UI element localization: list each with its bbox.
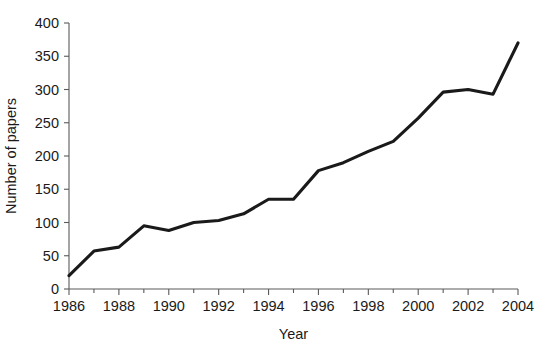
x-tick-label: 1994 (252, 298, 284, 314)
y-tick-label: 150 (35, 181, 59, 197)
x-tick-label: 2004 (502, 298, 534, 314)
x-tick-label-group: 1986198819901992199419961998200020022004 (53, 298, 534, 314)
x-tick-label: 2002 (452, 298, 484, 314)
chart-canvas: 050100150200250300350400 198619881990199… (0, 0, 538, 355)
y-axis-title: Number of papers (3, 98, 19, 214)
line-chart: 050100150200250300350400 198619881990199… (0, 0, 538, 355)
y-tick-label: 350 (35, 48, 59, 64)
x-tick-label: 2000 (402, 298, 434, 314)
x-tick-label: 1986 (53, 298, 85, 314)
x-tick-label: 1988 (103, 298, 135, 314)
x-tick-label: 1998 (352, 298, 384, 314)
y-tick-label: 50 (43, 248, 59, 264)
x-tick-label: 1992 (203, 298, 235, 314)
y-tick-label: 0 (51, 281, 59, 297)
y-axis-group: 050100150200250300350400 (35, 15, 69, 297)
x-axis-title: Year (279, 326, 308, 342)
y-tick-label: 300 (35, 82, 59, 98)
data-series-group (69, 43, 518, 276)
x-axis-group: 1986198819901992199419961998200020022004 (53, 289, 534, 314)
y-tick-label: 100 (35, 215, 59, 231)
x-tick-label: 1990 (153, 298, 185, 314)
y-tick-label-group: 050100150200250300350400 (35, 15, 59, 297)
y-tick-label: 250 (35, 115, 59, 131)
x-tick-group (69, 289, 518, 295)
x-tick-label: 1996 (302, 298, 334, 314)
y-tick-label: 200 (35, 148, 59, 164)
series-line-number-of-papers (69, 43, 518, 276)
y-tick-label: 400 (35, 15, 59, 31)
y-tick-group (64, 23, 69, 289)
